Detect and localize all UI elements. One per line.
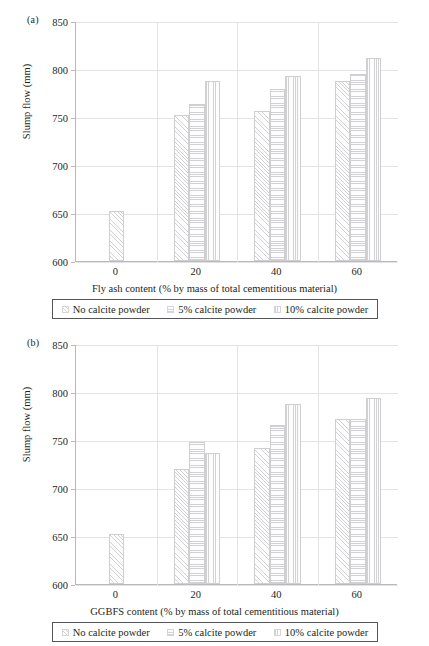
panel-b-legend: No calcite powder5% calcite powder10% ca… (52, 622, 378, 642)
legend-label: No calcite powder (73, 627, 150, 638)
y-tick-label-850: 850 (52, 340, 68, 351)
y-tick-label-750: 750 (52, 436, 68, 447)
y-tick-mark-650 (71, 214, 75, 215)
panel-a-x-axis-label: Fly ash content (% by mass of total ceme… (0, 283, 429, 294)
y-tick-label-650: 650 (52, 209, 68, 220)
y-tick-mark-800 (71, 70, 75, 71)
bar-60-diagonal (335, 419, 351, 584)
figure-slump-flow: (a) Slump flow (mm) 600650700750800850 0… (0, 0, 429, 646)
panel-a-y-ticks: 600650700750800850 (0, 22, 68, 262)
bar-40-horizontal (270, 89, 286, 261)
bar-60-diagonal (335, 81, 351, 261)
legend-label: 5% calcite powder (178, 627, 256, 638)
y-tick-mark-700 (71, 166, 75, 167)
x-tick-label-60: 60 (352, 589, 363, 600)
panel-a: (a) Slump flow (mm) 600650700750800850 0… (0, 0, 429, 323)
x-tick-label-20: 20 (191, 266, 202, 277)
y-tick-mark-700 (71, 489, 75, 490)
bar-20-horizontal (189, 442, 205, 584)
bar-60-vertical (366, 58, 382, 261)
legend-label: No calcite powder (73, 304, 150, 315)
y-tick-mark-850 (71, 22, 75, 23)
bar-40-diagonal (254, 448, 270, 584)
legend-item-vertical[interactable]: 10% calcite powder (274, 304, 368, 315)
y-tick-mark-600 (71, 262, 75, 263)
y-tick-label-700: 700 (52, 484, 68, 495)
legend-item-diagonal[interactable]: No calcite powder (62, 627, 150, 638)
x-tick-label-40: 40 (271, 266, 282, 277)
gridline-x-60 (318, 22, 319, 262)
panel-b-y-ticks: 600650700750800850 (0, 345, 68, 585)
y-tick-mark-850 (71, 345, 75, 346)
y-tick-mark-750 (71, 441, 75, 442)
panel-b-plot-area (75, 345, 397, 585)
y-tick-label-600: 600 (52, 257, 68, 268)
y-tick-mark-750 (71, 118, 75, 119)
x-tick-label-40: 40 (271, 589, 282, 600)
gridline-x-60 (318, 345, 319, 585)
gridline-x-40 (237, 22, 238, 262)
bar-20-horizontal (189, 104, 205, 261)
y-tick-label-700: 700 (52, 161, 68, 172)
x-tick-label-60: 60 (352, 266, 363, 277)
legend-item-horizontal[interactable]: 5% calcite powder (167, 627, 256, 638)
gridline-y-600 (76, 585, 398, 586)
y-tick-label-850: 850 (52, 17, 68, 28)
legend-swatch-diagonal-icon (62, 306, 69, 313)
legend-swatch-diagonal-icon (62, 629, 69, 636)
y-tick-mark-650 (71, 537, 75, 538)
bar-60-horizontal (350, 419, 366, 584)
gridline-x-20 (157, 345, 158, 585)
legend-swatch-vertical-icon (274, 629, 281, 636)
bar-40-vertical (285, 404, 301, 584)
bar-0-diagonal (109, 211, 125, 261)
gridline-x-20 (157, 22, 158, 262)
y-tick-label-800: 800 (52, 388, 68, 399)
legend-item-vertical[interactable]: 10% calcite powder (274, 627, 368, 638)
x-tick-label-20: 20 (191, 589, 202, 600)
x-tick-label-0: 0 (113, 589, 118, 600)
legend-label: 10% calcite powder (285, 627, 368, 638)
y-tick-label-600: 600 (52, 580, 68, 591)
bar-40-diagonal (254, 111, 270, 261)
legend-item-horizontal[interactable]: 5% calcite powder (167, 304, 256, 315)
bar-20-vertical (205, 453, 221, 584)
gridline-x-40 (237, 345, 238, 585)
bar-60-vertical (366, 398, 382, 584)
legend-item-diagonal[interactable]: No calcite powder (62, 304, 150, 315)
panel-a-plot-area (75, 22, 397, 262)
bar-0-diagonal (109, 534, 125, 584)
y-tick-mark-600 (71, 585, 75, 586)
bar-40-vertical (285, 76, 301, 261)
bar-60-horizontal (350, 74, 366, 261)
y-tick-label-750: 750 (52, 113, 68, 124)
panel-b: (b) Slump flow (mm) 600650700750800850 0… (0, 323, 429, 646)
y-tick-label-650: 650 (52, 532, 68, 543)
panel-a-x-ticks: 0204060 (75, 266, 397, 282)
legend-swatch-horizontal-icon (167, 306, 174, 313)
legend-label: 5% calcite powder (178, 304, 256, 315)
panel-b-x-ticks: 0204060 (75, 589, 397, 605)
y-tick-mark-800 (71, 393, 75, 394)
gridline-y-600 (76, 262, 398, 263)
x-tick-label-0: 0 (113, 266, 118, 277)
y-tick-label-800: 800 (52, 65, 68, 76)
bar-20-vertical (205, 81, 221, 261)
bar-20-diagonal (174, 115, 190, 261)
legend-swatch-horizontal-icon (167, 629, 174, 636)
panel-b-x-axis-label: GGBFS content (% by mass of total cement… (0, 606, 429, 617)
legend-label: 10% calcite powder (285, 304, 368, 315)
bar-20-diagonal (174, 469, 190, 584)
legend-swatch-vertical-icon (274, 306, 281, 313)
bar-40-horizontal (270, 425, 286, 584)
panel-a-legend: No calcite powder5% calcite powder10% ca… (52, 299, 378, 319)
